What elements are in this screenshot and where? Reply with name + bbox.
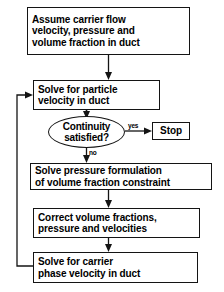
node-solve-carrier-line-1: Solve for carrier <box>38 256 113 268</box>
node-correct-volume-fractions[interactable]: Correct volume fractions, pressure and v… <box>33 208 200 238</box>
arrowhead-solve-pressure-to-correct <box>105 200 112 208</box>
node-solve-particle-velocity[interactable]: Solve for particle velocity in duct <box>33 80 160 110</box>
node-solve-carrier-phase-velocity[interactable]: Solve for carrier phase velocity in duct <box>33 252 198 283</box>
arrowhead-assume-to-solve-particle <box>105 72 112 80</box>
node-solve-pressure-line-1: Solve pressure formulation <box>35 165 162 177</box>
node-solve-pressure-line-2: of volume fraction constraint <box>35 177 170 189</box>
edge-label-no: no <box>89 149 97 156</box>
node-stop-label: Stop <box>160 125 182 137</box>
node-solve-pressure-formulation[interactable]: Solve pressure formulation of volume fra… <box>30 163 212 190</box>
arrowhead-continuity-to-stop <box>144 128 152 135</box>
node-solve-carrier-line-2: phase velocity in duct <box>38 268 140 280</box>
node-assume-line-1: Assume carrier flow <box>32 14 126 26</box>
node-correct-line-2: pressure and velocities <box>38 223 147 235</box>
node-continuity-line-1: Continuity <box>63 121 110 132</box>
node-stop[interactable]: Stop <box>152 122 190 140</box>
node-solve-particle-line-2: velocity in duct <box>38 95 109 107</box>
node-assume-line-3: volume fraction in duct <box>32 37 140 49</box>
node-assume-carrier-flow[interactable]: Assume carrier flow velocity, pressure a… <box>27 7 190 55</box>
node-continuity-line-2: satisfied? <box>64 132 109 143</box>
edge-label-yes: yes <box>128 122 138 129</box>
node-correct-line-1: Correct volume fractions, <box>38 212 157 224</box>
node-continuity-satisfied-decision[interactable]: Continuity satisfied? <box>48 116 125 148</box>
arrowhead-correct-to-solve-carrier <box>105 244 112 252</box>
arrowhead-continuity-to-solve-pressure <box>83 155 90 163</box>
node-solve-particle-line-1: Solve for particle <box>38 84 117 96</box>
node-assume-line-2: velocity, pressure and <box>32 25 135 37</box>
flowchart-canvas: Assume carrier flow velocity, pressure a… <box>0 0 224 292</box>
arrowhead-feedback-loop <box>25 92 33 99</box>
